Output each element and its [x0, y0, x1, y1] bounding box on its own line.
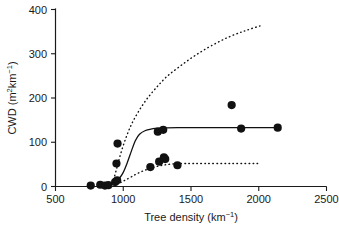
data-point — [87, 182, 95, 190]
data-point — [274, 124, 282, 132]
mean-fit-curve — [107, 128, 278, 186]
x-axis-title-sup: −1 — [226, 210, 235, 219]
y-tick-label-0: 0 — [41, 181, 47, 193]
data-point — [113, 176, 121, 184]
y-tick-label-300: 300 — [29, 48, 47, 60]
x-tick-label-500: 500 — [46, 193, 64, 205]
y-axis-tick-labels: 400 300 200 100 0 — [29, 4, 47, 193]
y-axis-ticks — [51, 10, 56, 187]
x-tick-label-1000: 1000 — [111, 193, 135, 205]
data-points-layer — [87, 101, 282, 190]
x-axis-title-main: Tree density (km — [144, 211, 226, 223]
x-axis-ticks — [56, 187, 327, 192]
data-point — [237, 124, 245, 132]
y-tick-label-400: 400 — [29, 4, 47, 16]
upper-confidence-curve — [110, 26, 260, 187]
data-point — [173, 161, 181, 169]
fitted-curves-layer — [107, 26, 278, 187]
lower-confidence-curve — [117, 163, 260, 184]
data-point — [159, 126, 167, 134]
y-axis-title: CWD (m2km−1) — [5, 61, 18, 134]
y-axis-title-tail: ) — [6, 61, 18, 65]
y-axis-title-mid: km — [6, 74, 18, 89]
y-axis-title-sup2: −1 — [5, 65, 14, 74]
data-point — [113, 139, 121, 147]
chart-figure: 400 300 200 100 0 500 1000 1500 2000 250… — [0, 0, 339, 231]
x-axis-title: Tree density (km−1) — [144, 210, 238, 223]
y-tick-label-100: 100 — [29, 136, 47, 148]
y-axis-title-head: CWD (m — [6, 92, 18, 134]
scatter-plot-canvas: 400 300 200 100 0 500 1000 1500 2000 250… — [0, 0, 339, 231]
data-point — [228, 101, 236, 109]
x-axis-title-tail: ) — [234, 211, 238, 223]
y-tick-label-200: 200 — [29, 92, 47, 104]
axes-group — [55, 9, 326, 187]
x-axis-tick-labels: 500 1000 1500 2000 2500 — [46, 193, 338, 205]
data-point — [112, 159, 120, 167]
x-tick-label-2000: 2000 — [247, 193, 271, 205]
data-point — [161, 155, 169, 163]
x-tick-label-1500: 1500 — [179, 193, 203, 205]
data-point — [146, 163, 154, 171]
x-tick-label-2500: 2500 — [314, 193, 338, 205]
